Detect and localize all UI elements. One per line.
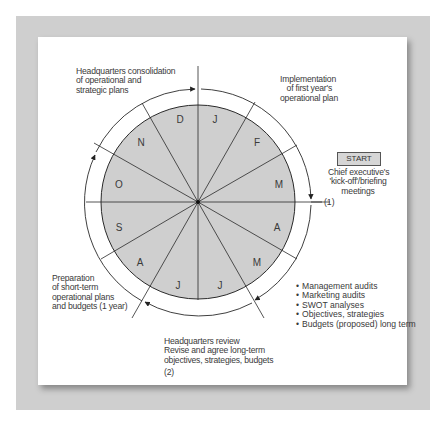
month-label-feb: F [254,137,260,148]
month-label-nov: N [137,137,144,148]
month-label-sep: S [116,222,123,233]
marker-2: (2) [164,368,273,377]
month-label-jul: J [176,280,181,291]
month-label-dec: D [176,114,183,125]
start-caption: Chief executive's 'kick-off'/briefing me… [328,168,388,196]
preparation-label: Preparation of short-term operational pl… [52,274,127,312]
activity-item: Budgets (proposed) long term [296,320,416,329]
hq-review-label: Headquarters review Revise and agree lon… [164,337,273,378]
implementation-label: Implementation of first year's operation… [280,75,332,103]
activities-list: Management audits Marketing audits SWOT … [296,282,416,329]
month-label-mar: M [275,179,283,190]
month-label-oct: O [115,179,123,190]
month-label-aug: A [137,257,144,268]
month-label-jun: J [218,280,223,291]
arc-hq-review [145,302,252,316]
center-dot [196,200,200,204]
marker-1: (1) [324,197,335,207]
hq-consolidation-label: Headquarters consolidation of operationa… [76,67,175,95]
month-label-apr: A [274,222,281,233]
month-label-may: M [253,257,261,268]
start-button: START [337,152,381,166]
month-label-jan: J [213,114,218,125]
